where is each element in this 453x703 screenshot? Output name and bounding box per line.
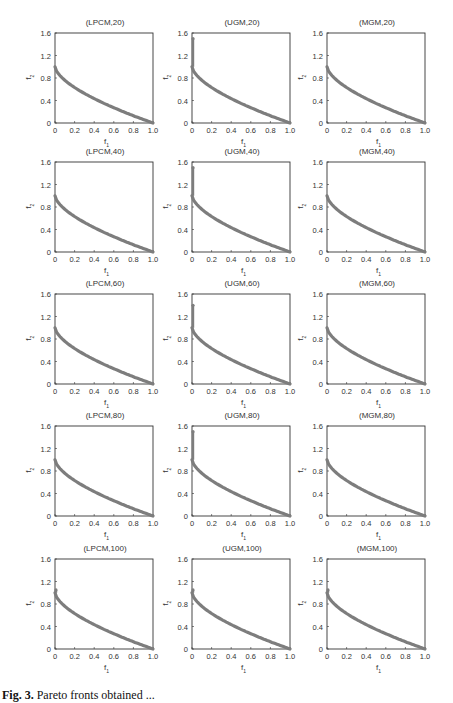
- x-tick-label: 0: [190, 126, 194, 135]
- x-axis-label: f1: [104, 663, 109, 674]
- x-tick-label: 0.6: [381, 387, 391, 396]
- y-tick-label: 0: [184, 248, 188, 257]
- x-tick-label: 0.4: [361, 126, 371, 135]
- x-tick-label: 0: [53, 255, 57, 264]
- x-tick-label: 0: [53, 652, 57, 661]
- x-tick-label: 0.4: [89, 519, 99, 528]
- y-tick-label: 0: [184, 380, 188, 389]
- x-tick-label: 0.2: [341, 519, 351, 528]
- y-tick-label: 0.8: [313, 203, 323, 212]
- x-tick-label: 0.2: [69, 519, 79, 528]
- x-tick-label: 1.0: [420, 255, 430, 264]
- axes-frame: [55, 426, 153, 516]
- x-tick-label: 0: [190, 387, 194, 396]
- y-tick-label: 1.2: [178, 578, 188, 587]
- x-tick-label: 0.6: [381, 652, 391, 661]
- y-tick-label: 0.4: [41, 358, 51, 367]
- x-tick-label: 1.0: [420, 126, 430, 135]
- subplot-ugm60: (UGM,60)00.40.81.21.600.20.40.60.81.0f2f…: [144, 279, 284, 407]
- x-tick-label: 0.4: [89, 652, 99, 661]
- outlier-point: [326, 588, 329, 591]
- axes-frame: [327, 559, 425, 649]
- axes-frame: [192, 294, 290, 384]
- plot-area: 00.40.81.21.600.20.40.60.81.0: [279, 279, 429, 407]
- y-tick-label: 1.6: [41, 158, 51, 167]
- x-tick-label: 0.4: [226, 255, 236, 264]
- x-tick-label: 0.8: [128, 519, 138, 528]
- x-axis-label: f1: [376, 530, 381, 541]
- x-tick-label: 0.8: [265, 126, 275, 135]
- x-tick-label: 0.4: [361, 519, 371, 528]
- y-tick-label: 1.6: [41, 555, 51, 564]
- subplot-lpcm60: (LPCM,60)00.40.81.21.600.20.40.60.81.0f2…: [7, 279, 147, 407]
- y-tick-label: 0: [184, 119, 188, 128]
- x-axis-label: f1: [376, 663, 381, 674]
- y-tick-label: 1.2: [41, 52, 51, 61]
- x-tick-label: 0.8: [265, 519, 275, 528]
- x-tick-label: 0.6: [381, 255, 391, 264]
- y-tick-label: 0.8: [41, 467, 51, 476]
- y-tick-label: 1.2: [178, 52, 188, 61]
- y-axis-label: f2: [24, 204, 35, 209]
- y-tick-label: 0.8: [313, 335, 323, 344]
- y-tick-label: 0.4: [41, 490, 51, 499]
- x-tick-label: 0.2: [206, 519, 216, 528]
- y-tick-label: 0: [47, 380, 51, 389]
- y-tick-label: 0.4: [313, 358, 323, 367]
- y-tick-label: 1.6: [313, 555, 323, 564]
- y-tick-label: 0: [319, 248, 323, 257]
- x-tick-label: 0.6: [109, 387, 119, 396]
- x-tick-label: 0.8: [400, 255, 410, 264]
- x-tick-label: 0.6: [109, 652, 119, 661]
- subplot-mgm20: (MGM,20)00.40.81.21.600.20.40.60.81.0f2f…: [279, 18, 419, 146]
- y-tick-label: 0.4: [178, 226, 188, 235]
- y-axis-label: f2: [24, 336, 35, 341]
- plot-area: 00.40.81.21.600.20.40.60.81.0: [279, 18, 429, 146]
- subplot-mgm40: (MGM,40)00.40.81.21.600.20.40.60.81.0f2f…: [279, 147, 419, 275]
- x-tick-label: 0.8: [128, 255, 138, 264]
- y-tick-label: 0.4: [41, 226, 51, 235]
- y-tick-label: 1.6: [41, 422, 51, 431]
- subplot-ugm100: (UGM,100)00.40.81.21.600.20.40.60.81.0f2…: [144, 544, 284, 672]
- x-tick-label: 0.8: [400, 126, 410, 135]
- x-tick-label: 0.6: [246, 387, 256, 396]
- x-axis-label: f1: [376, 137, 381, 148]
- y-axis-label: f2: [296, 204, 307, 209]
- x-axis-label: f1: [376, 266, 381, 277]
- y-tick-label: 0: [319, 512, 323, 521]
- x-tick-label: 0.4: [361, 387, 371, 396]
- y-tick-label: 0.4: [41, 623, 51, 632]
- subplot-ugm20: (UGM,20)00.40.81.21.600.20.40.60.81.0f2f…: [144, 18, 284, 146]
- x-tick-label: 0.6: [381, 519, 391, 528]
- x-tick-label: 0.2: [206, 126, 216, 135]
- x-tick-label: 0.2: [69, 126, 79, 135]
- x-tick-label: 0.6: [246, 652, 256, 661]
- plot-area: 00.40.81.21.600.20.40.60.81.0: [7, 18, 157, 146]
- subplot-lpcm80: (LPCM,80)00.40.81.21.600.20.40.60.81.0f2…: [7, 411, 147, 539]
- y-tick-label: 0.8: [313, 467, 323, 476]
- y-tick-label: 1.6: [313, 290, 323, 299]
- x-axis-label: f1: [241, 266, 246, 277]
- y-axis-label: f2: [24, 468, 35, 473]
- pareto-front-curve: [327, 460, 425, 516]
- y-tick-label: 1.2: [313, 313, 323, 322]
- y-tick-label: 0.8: [41, 74, 51, 83]
- x-tick-label: 0.2: [69, 255, 79, 264]
- y-tick-label: 0: [184, 645, 188, 654]
- x-tick-label: 0.8: [265, 387, 275, 396]
- y-tick-label: 1.2: [178, 445, 188, 454]
- y-tick-label: 1.6: [41, 290, 51, 299]
- y-tick-label: 0.8: [178, 467, 188, 476]
- y-tick-label: 0.4: [178, 97, 188, 106]
- outlier-point: [191, 166, 194, 169]
- x-tick-label: 0.4: [226, 387, 236, 396]
- y-tick-label: 1.2: [313, 52, 323, 61]
- plot-area: 00.40.81.21.600.20.40.60.81.0: [279, 411, 429, 539]
- y-tick-label: 0.8: [178, 74, 188, 83]
- x-tick-label: 0: [325, 387, 329, 396]
- x-tick-label: 0.2: [69, 387, 79, 396]
- y-tick-label: 0.4: [313, 226, 323, 235]
- y-tick-label: 0: [47, 512, 51, 521]
- axes-frame: [327, 294, 425, 384]
- x-tick-label: 1.0: [420, 652, 430, 661]
